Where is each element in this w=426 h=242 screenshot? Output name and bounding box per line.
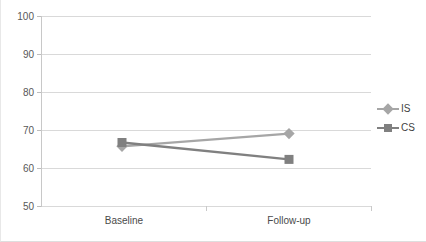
diamond-marker-icon bbox=[382, 103, 393, 114]
series-IS bbox=[116, 128, 294, 152]
series-CS-point-baseline bbox=[118, 138, 127, 147]
legend-item-cs[interactable]: CS bbox=[377, 120, 426, 136]
series-layer bbox=[1, 0, 426, 242]
legend-label-cs: CS bbox=[401, 122, 415, 134]
legend-label-is: IS bbox=[401, 103, 410, 115]
series-CS bbox=[118, 138, 294, 164]
series-IS-point-followup bbox=[283, 128, 294, 139]
line-chart: 100 90 80 70 60 50 Baseline Follow-up IS bbox=[0, 0, 426, 242]
square-marker-icon bbox=[384, 124, 392, 132]
legend-swatch-cs bbox=[377, 122, 399, 134]
chart-legend: IS CS bbox=[377, 101, 426, 139]
series-CS-line bbox=[122, 143, 289, 160]
legend-swatch-is bbox=[377, 103, 399, 115]
legend-item-is[interactable]: IS bbox=[377, 101, 426, 117]
series-CS-point-followup bbox=[285, 155, 294, 164]
